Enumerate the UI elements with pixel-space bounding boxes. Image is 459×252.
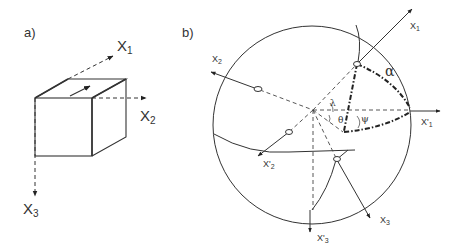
panel-a-label: a) bbox=[24, 26, 36, 39]
x3-label-b-sub: 3 bbox=[386, 219, 390, 226]
x3-label-a-name: X bbox=[23, 200, 33, 217]
angle-alpha-arcs bbox=[344, 64, 410, 132]
x3p-label-b-sub: 3 bbox=[325, 237, 329, 244]
x2-label-b: X2 bbox=[212, 55, 222, 65]
x2p-label-b-name: X' bbox=[263, 159, 271, 169]
shear-arrow bbox=[70, 86, 90, 96]
panel-b-label: b) bbox=[182, 26, 194, 39]
x3p-label-b-name: X' bbox=[317, 233, 325, 243]
x1-label-a-name: X bbox=[117, 37, 127, 54]
x2-label-a-sub: 2 bbox=[150, 115, 156, 126]
x1p-label-b: X'1 bbox=[421, 118, 433, 128]
x3-label-a-sub: 3 bbox=[33, 208, 39, 219]
lambda-label: λ bbox=[330, 99, 336, 108]
x2-label-b-sub: 2 bbox=[218, 58, 222, 65]
x3-label-b: X3 bbox=[380, 216, 390, 226]
x2p-label-b: X'2 bbox=[263, 160, 275, 170]
x3-label-a: X3 bbox=[23, 201, 39, 219]
x3-axis-b bbox=[337, 160, 370, 218]
sphere bbox=[213, 25, 411, 224]
diagram-canvas bbox=[0, 0, 459, 252]
psi-label: ψ bbox=[361, 114, 369, 124]
theta-label: θ bbox=[338, 116, 343, 125]
x1p-label-b-name: X' bbox=[421, 117, 429, 127]
x1-axis-b bbox=[357, 9, 412, 64]
x2p-label-b-sub: 2 bbox=[271, 163, 275, 170]
x1-axis-a bbox=[68, 56, 113, 79]
x2-label-a: X2 bbox=[140, 108, 156, 126]
x1-label-a-sub: 1 bbox=[127, 45, 133, 56]
x1-label-a: X1 bbox=[117, 38, 133, 56]
alpha-label: α bbox=[385, 64, 394, 78]
x2-label-a-name: X bbox=[140, 107, 150, 124]
x3p-label-b: X'3 bbox=[317, 234, 329, 244]
x1-label-b: X1 bbox=[410, 22, 420, 32]
x2-axis-b bbox=[211, 72, 260, 90]
x1-label-b-sub: 1 bbox=[416, 25, 420, 32]
cube-axes bbox=[35, 56, 146, 196]
x1p-label-b-sub: 1 bbox=[429, 121, 433, 128]
